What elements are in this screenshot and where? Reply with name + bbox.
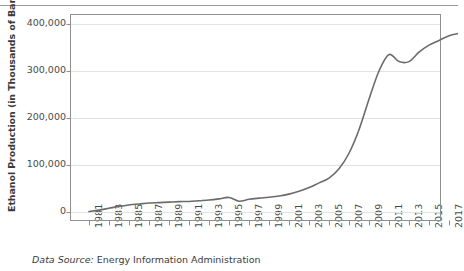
x-axis-ticks xyxy=(90,221,450,226)
data-line-ethanol-production xyxy=(89,33,458,211)
source-caption: Data Source: Energy Information Administ… xyxy=(32,254,261,265)
source-prefix: Data Source: xyxy=(32,254,94,265)
source-value: Energy Information Administration xyxy=(97,254,261,265)
gridlines xyxy=(71,25,441,213)
y-axis-ticks xyxy=(67,25,71,213)
plot-frame xyxy=(71,15,441,221)
